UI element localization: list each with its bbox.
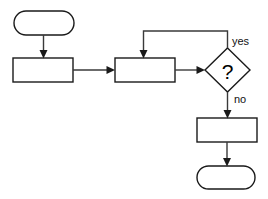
node-process-1[interactable]	[13, 58, 73, 82]
edge-label-yes: yes	[232, 35, 250, 47]
flowchart-svg: ? yes no	[0, 0, 268, 199]
flowchart-canvas: ? yes no	[0, 0, 268, 199]
arrow-head-process-1-to-process-2	[107, 66, 116, 74]
arrow-head-start-to-process-1	[40, 50, 48, 59]
arrow-head-yes-loop-to-process-2	[140, 50, 148, 59]
node-process-2[interactable]	[115, 58, 175, 82]
arrow-head-no-to-process-3	[224, 110, 232, 119]
edge-label-no: no	[234, 93, 246, 105]
edge-decision-yes-loop	[144, 31, 228, 54]
node-start-terminator[interactable]	[14, 11, 74, 35]
arrow-head-process-3-to-end	[223, 158, 231, 167]
node-process-3[interactable]	[197, 118, 257, 142]
node-end-terminator[interactable]	[197, 166, 255, 189]
decision-question-mark-label: ?	[222, 60, 234, 83]
arrow-head-process-2-to-decision	[197, 66, 206, 74]
